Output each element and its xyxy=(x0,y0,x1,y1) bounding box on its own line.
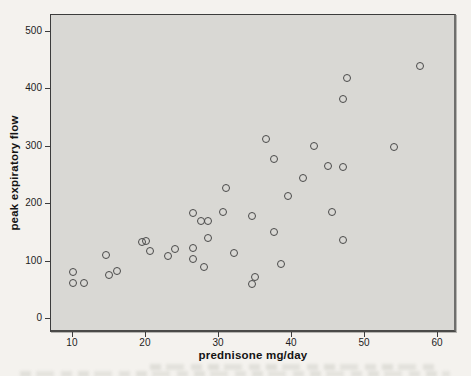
data-point xyxy=(416,62,424,70)
y-axis-tick xyxy=(45,318,50,319)
data-point xyxy=(146,247,154,255)
data-point xyxy=(189,255,197,263)
x-axis-tick-label: 10 xyxy=(57,337,87,348)
scatter-plot-figure: prednisone mg/day peak expiratory flow 1… xyxy=(0,0,471,376)
data-point xyxy=(113,267,121,275)
y-axis-tick xyxy=(45,261,50,262)
y-axis-tick xyxy=(45,31,50,32)
data-point xyxy=(80,279,88,287)
data-point xyxy=(248,280,256,288)
y-axis-tick xyxy=(45,88,50,89)
y-axis-tick-label: 500 xyxy=(0,25,42,37)
data-point xyxy=(328,208,336,216)
data-point xyxy=(262,135,270,143)
data-point xyxy=(171,245,179,253)
plot-area xyxy=(50,14,456,332)
x-axis-tick-label: 50 xyxy=(349,337,379,348)
data-point xyxy=(339,163,347,171)
data-point xyxy=(69,279,77,287)
data-point xyxy=(69,268,77,276)
x-axis-tick-label: 60 xyxy=(422,337,452,348)
data-point xyxy=(270,155,278,163)
y-axis-tick-label: 200 xyxy=(0,197,42,209)
data-point xyxy=(339,95,347,103)
data-point xyxy=(219,208,227,216)
data-point xyxy=(102,251,110,259)
data-point xyxy=(222,184,230,192)
data-point xyxy=(105,271,113,279)
data-point xyxy=(310,142,318,150)
data-point xyxy=(230,249,238,257)
y-axis-tick xyxy=(45,203,50,204)
data-point xyxy=(204,217,212,225)
data-point xyxy=(284,192,292,200)
data-point xyxy=(204,234,212,242)
data-point xyxy=(164,252,172,260)
bleedthrough-artifact xyxy=(150,364,440,370)
data-point xyxy=(277,260,285,268)
data-point xyxy=(142,237,150,245)
data-point xyxy=(189,209,197,217)
y-axis-tick xyxy=(45,146,50,147)
x-axis-title: prednisone mg/day xyxy=(50,349,456,361)
data-point xyxy=(299,174,307,182)
bleedthrough-artifact xyxy=(20,371,450,376)
x-axis-tick-label: 30 xyxy=(203,337,233,348)
data-point xyxy=(270,228,278,236)
y-axis-tick-label: 300 xyxy=(0,140,42,152)
data-point xyxy=(200,263,208,271)
data-point xyxy=(324,162,332,170)
y-axis-tick-label: 400 xyxy=(0,82,42,94)
data-point xyxy=(248,212,256,220)
x-axis-tick-label: 20 xyxy=(130,337,160,348)
data-point xyxy=(390,143,398,151)
y-axis-title: peak expiratory flow xyxy=(8,93,20,253)
data-point xyxy=(189,244,197,252)
x-axis-tick-label: 40 xyxy=(276,337,306,348)
y-axis-tick-label: 0 xyxy=(0,312,42,324)
data-point xyxy=(339,236,347,244)
data-point xyxy=(343,74,351,82)
y-axis-tick-label: 100 xyxy=(0,255,42,267)
